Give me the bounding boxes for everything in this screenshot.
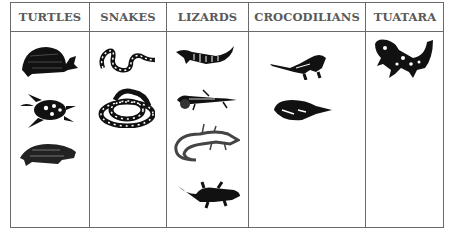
alligator-icon [272, 98, 334, 122]
header-divider [11, 31, 443, 32]
box-turtle-icon [18, 44, 80, 78]
header-lizards: LIZARDS [167, 3, 248, 31]
tuatara-icon [373, 38, 435, 84]
column-divider [166, 3, 167, 227]
header-turtles: TURTLES [11, 3, 89, 31]
coiled-rattlesnake-icon [97, 86, 155, 128]
banded-lizard-icon [176, 44, 236, 68]
header-crocodilians: CROCODILIANS [249, 3, 365, 31]
speckled-lizard-icon [172, 120, 240, 162]
whiptail-lizard-icon [175, 88, 239, 112]
spotted-snake-icon [97, 46, 157, 76]
snapping-turtle-icon [18, 140, 80, 166]
column-divider [365, 3, 366, 227]
column-divider [248, 3, 249, 227]
gecko-icon [178, 180, 242, 210]
header-snakes: SNAKES [90, 3, 166, 31]
crocodile-icon [270, 50, 328, 80]
column-divider [89, 3, 90, 227]
header-tuatara: TUATARA [366, 3, 444, 31]
sea-turtle-icon [18, 92, 78, 130]
